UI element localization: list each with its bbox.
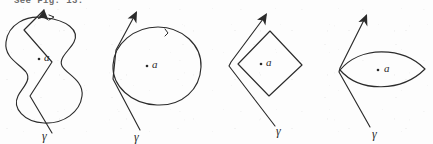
direction-tick-icon [165,29,168,36]
orientation-arrow-head [358,14,367,27]
lens-closed-curve [340,52,425,87]
curve-label-gamma: γ [372,127,377,141]
curve-label-gamma: γ [42,129,47,143]
figure-plate: See Fig. 13. a γ a γ [0,0,433,144]
wavy-s-closed-curve [6,17,82,123]
orientation-arrow [229,15,275,126]
orientation-arrow-head [257,13,267,26]
point-marker-a [377,69,380,72]
orientation-arrow [24,10,52,133]
point-label-a: a [384,62,390,74]
point-marker-a [146,65,149,68]
figure-3: a γ [214,0,320,144]
point-marker-a [260,63,263,66]
curve-label-gamma: γ [134,130,139,144]
point-label-a: a [266,56,272,68]
point-label-a: a [44,51,50,63]
orientation-arrow-head [128,11,137,24]
orientation-arrow [113,13,140,130]
figure-2: a γ [104,0,216,144]
figure-4: a γ [316,0,433,144]
point-marker-a [38,58,41,61]
point-label-a: a [152,58,158,70]
orientation-arrow [339,16,370,127]
figure-1: a γ [0,0,112,144]
curve-label-gamma: γ [276,124,281,138]
